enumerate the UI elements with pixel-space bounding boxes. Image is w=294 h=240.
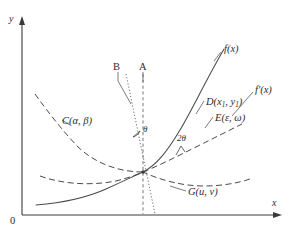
figure-container: y x 0 f(x) f′(x) D(x1, y1) E(ε, ω) C(α, … bbox=[0, 0, 294, 240]
label-angle-two-theta: 2θ bbox=[177, 133, 187, 143]
label-angle-theta: θ bbox=[143, 124, 148, 134]
angle-two-theta-mark bbox=[176, 146, 185, 155]
y-axis-arrowhead bbox=[19, 16, 25, 25]
x-axis-label: x bbox=[271, 197, 277, 208]
label-point-d: D(x1, y1) bbox=[205, 96, 243, 109]
x-axis-arrowhead bbox=[273, 212, 282, 218]
curve-g-u-v bbox=[40, 172, 250, 186]
label-point-d-mid: , y bbox=[225, 96, 235, 107]
label-point-d-end: ) bbox=[238, 96, 243, 108]
label-curve-f: f(x) bbox=[224, 43, 239, 55]
y-axis-label: y bbox=[8, 13, 14, 24]
leader-line-e bbox=[205, 117, 213, 128]
line-b bbox=[126, 74, 155, 214]
label-curve-g: G(u, v) bbox=[188, 186, 218, 198]
label-point-e: E(ε, ω) bbox=[214, 112, 246, 124]
label-curve-c: C(α, β) bbox=[62, 115, 92, 127]
origin-label: 0 bbox=[10, 215, 15, 226]
angle-theta-mark bbox=[133, 131, 140, 137]
curve-f-prime-of-x bbox=[143, 124, 242, 172]
leader-line-g bbox=[170, 186, 186, 191]
label-line-b: B bbox=[113, 61, 120, 72]
label-curve-f-prime: f′(x) bbox=[255, 84, 272, 96]
intersection-point bbox=[141, 170, 144, 173]
curve-c-alpha-beta bbox=[35, 94, 143, 172]
figure-canvas: y x 0 f(x) f′(x) D(x1, y1) E(ε, ω) C(α, … bbox=[0, 0, 294, 240]
leader-line-b bbox=[118, 72, 131, 104]
leader-line-d bbox=[196, 101, 204, 114]
label-point-d-head: D(x bbox=[205, 96, 222, 108]
label-line-a: A bbox=[139, 61, 147, 72]
